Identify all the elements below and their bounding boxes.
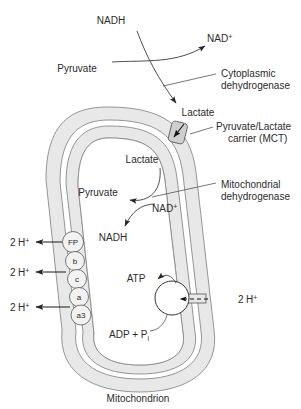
label-mct-line1: Pyruvate/Lactate — [216, 121, 291, 132]
label-pyruvate-matrix: Pyruvate — [78, 187, 118, 198]
label-nad-plus-matrix: NAD+ — [152, 203, 177, 215]
label-complex-a3: a3 — [77, 311, 86, 320]
label-lactate-matrix: Lactate — [126, 154, 159, 165]
label-complex-fp: FP — [68, 238, 78, 247]
label-cytoplasmic-dehydrogenase-line2: dehydrogenase — [221, 80, 290, 91]
lactate-shuttle-diagram: NADH NAD+ Pyruvate Lactate Cytoplasmic d… — [0, 0, 301, 409]
label-proton-2: 2H+ — [10, 267, 29, 279]
label-nad-plus-cytoplasm: NAD+ — [207, 33, 232, 45]
label-atp: ATP — [127, 273, 146, 284]
label-complex-c: c — [75, 275, 79, 284]
label-atp-proton: 2H+ — [238, 294, 257, 306]
label-complex-b: b — [73, 257, 78, 266]
label-proton-3: 2H+ — [10, 302, 29, 314]
diagram-labels: NADH NAD+ Pyruvate Lactate Cytoplasmic d… — [0, 0, 301, 409]
label-pyruvate-cytoplasm: Pyruvate — [57, 63, 97, 74]
figure-caption: Mitochondrion — [107, 393, 170, 404]
label-lactate-cytoplasm: Lactate — [182, 107, 215, 118]
label-adp-pi: ADP + Pi — [109, 329, 149, 342]
label-mct-line2: carrier (MCT) — [228, 133, 287, 144]
label-proton-1: 2H+ — [10, 237, 29, 249]
label-nadh-matrix: NADH — [99, 232, 127, 243]
label-complex-a: a — [77, 293, 82, 302]
label-mitochondrial-dehydrogenase-line2: dehydrogenase — [221, 191, 290, 202]
label-nadh-cytoplasm: NADH — [97, 15, 125, 26]
label-mitochondrial-dehydrogenase-line1: Mitochondrial — [221, 179, 280, 190]
label-cytoplasmic-dehydrogenase-line1: Cytoplasmic — [221, 68, 275, 79]
